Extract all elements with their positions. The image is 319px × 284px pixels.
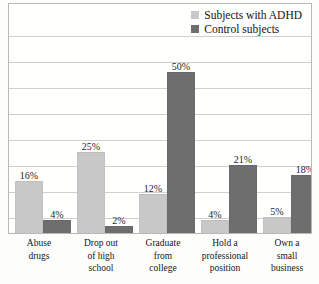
bar-control[interactable]: 2% (105, 226, 133, 233)
legend-item-control[interactable]: Control subjects (191, 22, 302, 35)
category-label-line: college (132, 262, 194, 275)
category-label-line: Graduate (132, 237, 194, 250)
bar-value-label: 18% (296, 164, 312, 175)
bar-adhd[interactable]: 4% (201, 220, 229, 233)
category-label-line: professional (194, 250, 256, 263)
bar-control[interactable]: 18% (291, 175, 312, 233)
bar-adhd[interactable]: 25% (77, 152, 105, 233)
bar-control[interactable]: 21% (229, 165, 257, 233)
category-label-line: Abuse (8, 237, 70, 250)
category-label-line: school (70, 262, 132, 275)
legend-label: Control subjects (204, 23, 279, 35)
category-label-line: business (256, 262, 318, 275)
category-label-line: of high (70, 250, 132, 263)
legend-label: Subjects with ADHD (204, 9, 302, 21)
category-label-line: Hold a (194, 237, 256, 250)
bar-value-label: 50% (172, 61, 190, 72)
bar-group: 5% 18% (263, 4, 312, 233)
category-label-small-business: Own a small business (256, 237, 318, 275)
category-label-drop-out: Drop out of high school (70, 237, 132, 275)
bar-adhd[interactable]: 12% (139, 194, 167, 233)
bar-value-label: 4% (50, 209, 63, 220)
bar-group: 4% 21% (201, 4, 257, 233)
bar-control[interactable]: 50% (167, 72, 195, 233)
category-label-line: Drop out (70, 237, 132, 250)
bar-adhd[interactable]: 5% (263, 217, 291, 233)
bar-group: 12% 50% (139, 4, 195, 233)
bar-adhd[interactable]: 16% (15, 181, 43, 233)
bar-group: 16% 4% (15, 4, 71, 233)
category-label-professional: Hold a professional position (194, 237, 256, 275)
legend-item-adhd[interactable]: Subjects with ADHD (191, 8, 302, 21)
bar-value-label: 21% (234, 154, 252, 165)
bar-value-label: 16% (20, 170, 38, 181)
category-label-line: position (194, 262, 256, 275)
bar-value-label: 12% (144, 183, 162, 194)
category-label-line: from (132, 250, 194, 263)
category-label-line: small (256, 250, 318, 263)
category-label-graduate: Graduate from college (132, 237, 194, 275)
bars-layer: 16% 4% 25% 2% 12% (9, 4, 311, 233)
category-label-line: drugs (8, 250, 70, 263)
bar-control[interactable]: 4% (43, 220, 71, 233)
legend-swatch-icon (191, 25, 199, 33)
bar-value-label: 25% (82, 141, 100, 152)
legend-swatch-icon (191, 11, 199, 19)
category-label-abuse-drugs: Abuse drugs (8, 237, 70, 262)
chart-legend: Subjects with ADHD Control subjects (191, 8, 302, 36)
category-axis: Abuse drugs Drop out of high school Grad… (8, 237, 312, 283)
chart-figure: 16% 4% 25% 2% 12% (0, 0, 319, 284)
bar-value-label: 5% (270, 206, 283, 217)
plot-area: 16% 4% 25% 2% 12% (8, 3, 312, 234)
bar-value-label: 2% (112, 215, 125, 226)
bar-value-label: 4% (208, 209, 221, 220)
category-label-line: Own a (256, 237, 318, 250)
bar-group: 25% 2% (77, 4, 133, 233)
